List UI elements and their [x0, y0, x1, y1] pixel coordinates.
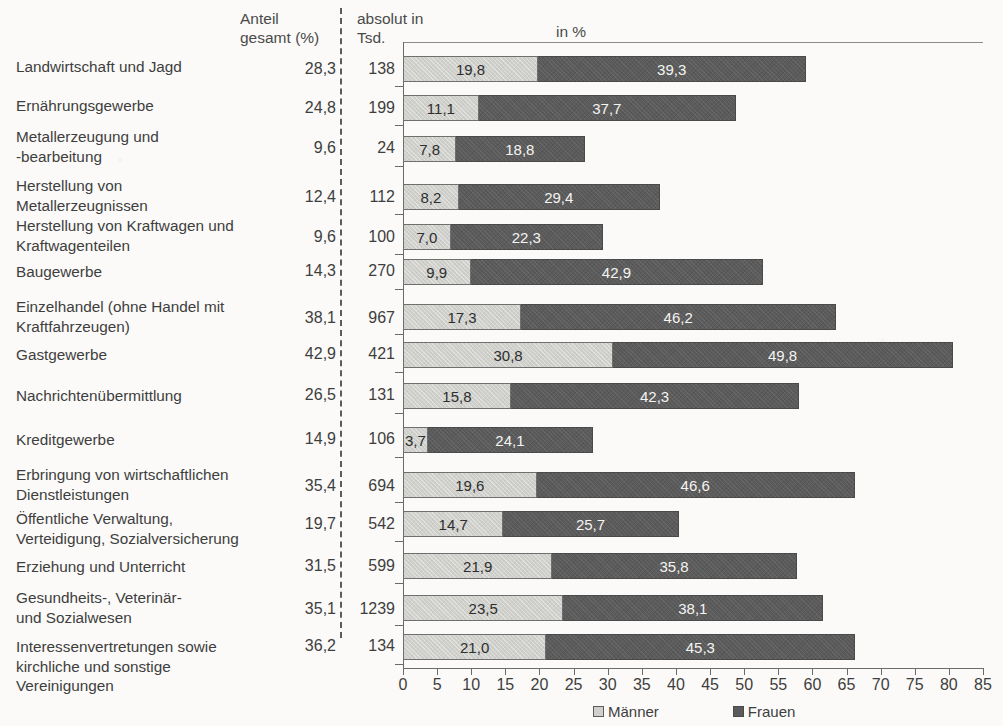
bar-segment-women[interactable]: 42,3: [511, 383, 800, 409]
x-axis-tick: [403, 668, 404, 675]
bar-value-label-women: 49,8: [768, 347, 797, 364]
table-row[interactable]: 7,022,3: [403, 224, 603, 250]
absolute-value: 542: [344, 515, 395, 533]
table-row[interactable]: 21,935,8: [403, 553, 797, 579]
bar-segment-women[interactable]: 38,1: [563, 595, 823, 621]
share-total-value: 14,9: [232, 430, 336, 448]
bar-value-label-women: 37,7: [592, 100, 621, 117]
bar-segment-men[interactable]: 19,6: [403, 472, 537, 498]
legend-label-women: Frauen: [748, 703, 796, 720]
bar-segment-men[interactable]: 21,0: [403, 634, 546, 660]
bar-segment-women[interactable]: 35,8: [552, 553, 796, 579]
bar-segment-men[interactable]: 9,9: [403, 259, 471, 285]
bar-segment-women[interactable]: 39,3: [538, 56, 806, 82]
absolute-value: 270: [344, 262, 395, 280]
bar-value-label-men: 11,1: [427, 100, 455, 117]
x-axis-tick: [471, 668, 472, 675]
table-row[interactable]: 7,818,8: [403, 136, 585, 162]
table-row[interactable]: 11,137,7: [403, 95, 736, 121]
bar-value-label-men: 21,0: [460, 639, 489, 656]
table-row[interactable]: 21,045,3: [403, 634, 855, 660]
x-axis-tick: [710, 668, 711, 675]
bar-segment-women[interactable]: 22,3: [451, 224, 603, 250]
bar-value-label-women: 46,6: [681, 477, 710, 494]
column-header-share-total: Anteil gesamt (%): [240, 9, 319, 47]
share-total-value: 12,4: [232, 188, 336, 206]
bar-segment-men[interactable]: 3,7: [403, 427, 428, 453]
absolute-value: 1239: [344, 600, 395, 618]
bar-segment-men[interactable]: 30,8: [403, 342, 613, 368]
table-row[interactable]: 23,538,1: [403, 595, 823, 621]
bar-segment-men[interactable]: 14,7: [403, 511, 503, 537]
table-row[interactable]: 19,839,3: [403, 56, 806, 82]
bar-segment-men[interactable]: 11,1: [403, 95, 479, 121]
bar-value-label-men: 3,7: [405, 432, 426, 449]
share-total-value: 35,4: [232, 477, 336, 495]
x-axis-tick-label: 85: [963, 676, 1003, 694]
bar-value-label-men: 15,8: [442, 388, 471, 405]
absolute-value: 199: [344, 99, 395, 117]
share-total-value: 24,8: [232, 99, 336, 117]
absolute-value: 131: [344, 386, 395, 404]
bar-value-label-men: 30,8: [493, 347, 522, 364]
x-axis-tick: [949, 668, 950, 675]
category-label: Baugewerbe: [16, 262, 241, 282]
y-axis-tick: [395, 372, 403, 373]
x-axis-tick: [778, 668, 779, 675]
bar-segment-women[interactable]: 18,8: [456, 136, 584, 162]
bar-value-label-men: 23,5: [469, 600, 498, 617]
bar-segment-women[interactable]: 24,1: [428, 427, 592, 453]
bar-value-label-women: 38,1: [678, 600, 707, 617]
table-row[interactable]: 3,724,1: [403, 427, 593, 453]
bar-segment-men[interactable]: 21,9: [403, 553, 552, 579]
table-row[interactable]: 30,849,8: [403, 342, 953, 368]
bar-value-label-men: 17,3: [447, 309, 476, 326]
y-axis-tick: [395, 334, 403, 335]
bar-segment-men[interactable]: 15,8: [403, 383, 511, 409]
x-axis-tick: [847, 668, 848, 675]
table-row[interactable]: 14,725,7: [403, 511, 679, 537]
bar-value-label-men: 9,9: [426, 264, 447, 281]
y-axis-tick: [395, 166, 403, 167]
share-total-value: 36,2: [232, 637, 336, 655]
absolute-value: 134: [344, 637, 395, 655]
bar-segment-men[interactable]: 8,2: [403, 184, 459, 210]
bar-value-label-men: 7,0: [416, 229, 437, 246]
absolute-value: 421: [344, 345, 395, 363]
x-axis-tick: [812, 668, 813, 675]
x-axis-tick: [881, 668, 882, 675]
bar-segment-women[interactable]: 42,9: [471, 259, 764, 285]
table-row[interactable]: 19,646,6: [403, 472, 855, 498]
table-row[interactable]: 9,942,9: [403, 259, 763, 285]
absolute-value: 694: [344, 477, 395, 495]
bar-value-label-women: 18,8: [505, 141, 534, 158]
bar-segment-women[interactable]: 37,7: [479, 95, 736, 121]
legend-label-men: Männer: [608, 703, 659, 720]
category-label: Metallerzeugung und -bearbeitung: [16, 127, 241, 166]
bar-segment-women[interactable]: 25,7: [503, 511, 678, 537]
table-row[interactable]: 8,229,4: [403, 184, 660, 210]
bar-segment-women[interactable]: 49,8: [613, 342, 953, 368]
x-axis-tick: [574, 668, 575, 675]
bar-value-label-men: 14,7: [439, 516, 468, 533]
category-label: Landwirtschaft und Jagd: [16, 57, 241, 77]
legend-swatch-women-icon: [733, 706, 744, 717]
absolute-value: 24: [344, 139, 395, 157]
category-label: Einzelhandel (ohne Handel mit Kraftfahrz…: [16, 297, 241, 336]
bar-segment-men[interactable]: 7,8: [403, 136, 456, 162]
bar-segment-women[interactable]: 29,4: [459, 184, 660, 210]
bar-segment-women[interactable]: 46,6: [537, 472, 855, 498]
bar-segment-men[interactable]: 23,5: [403, 595, 563, 621]
bar-segment-men[interactable]: 19,8: [403, 56, 538, 82]
bar-segment-women[interactable]: 46,2: [521, 304, 836, 330]
bar-segment-women[interactable]: 45,3: [546, 634, 855, 660]
share-total-value: 9,6: [232, 139, 336, 157]
bar-value-label-men: 19,8: [456, 61, 485, 78]
bar-segment-men[interactable]: 17,3: [403, 304, 521, 330]
table-row[interactable]: 15,842,3: [403, 383, 799, 409]
category-label: Gesundheits-, Veterinär- und Sozialwesen: [16, 588, 241, 627]
table-row[interactable]: 17,346,2: [403, 304, 836, 330]
bar-value-label-women: 24,1: [495, 432, 524, 449]
legend-item-men: Männer: [593, 703, 659, 720]
bar-segment-men[interactable]: 7,0: [403, 224, 451, 250]
